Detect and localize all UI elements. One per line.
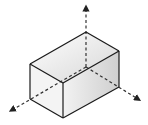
- cuboid-diagram: [0, 0, 148, 125]
- diagram-canvas: [0, 0, 148, 125]
- box-faces: [30, 32, 119, 118]
